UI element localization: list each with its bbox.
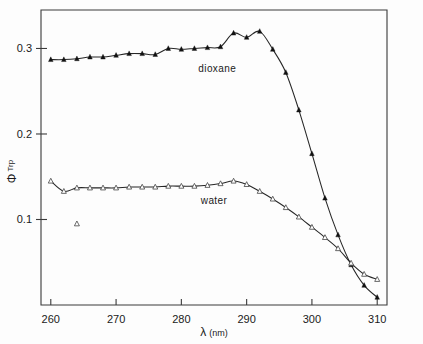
marker-dioxane-286 <box>218 44 223 49</box>
marker-dioxane-300 <box>310 151 315 156</box>
marker-water-308 <box>362 271 367 276</box>
marker-water-298 <box>296 214 301 219</box>
marker-water-294 <box>270 196 275 201</box>
annotation-water: water <box>200 195 228 206</box>
x-axis-tick-labels: 260270280290300310 <box>42 313 387 325</box>
y-axis-tick-labels: 0.10.20.3 <box>17 42 32 225</box>
x-tick-label-290: 290 <box>237 313 255 325</box>
plot-frame <box>41 10 387 305</box>
y-tick-label-0.1: 0.1 <box>17 213 32 225</box>
chart-plot: 260270280290300310 0.10.20.3 dioxanewate… <box>0 0 423 344</box>
marker-dioxane-296 <box>284 70 289 75</box>
marker-dioxane-304 <box>336 232 341 237</box>
curve-annotations: dioxanewater <box>198 63 236 206</box>
x-tick-label-270: 270 <box>107 313 125 325</box>
x-axis-title: λ(nm) <box>200 325 228 339</box>
marker-water-260 <box>48 178 53 183</box>
marker-water-292 <box>257 189 262 194</box>
plot-box <box>41 10 387 305</box>
axis-ticks <box>36 48 377 305</box>
y-axis-title: ΦTrp <box>5 159 19 183</box>
x-tick-label-310: 310 <box>368 313 386 325</box>
figure-container: 260270280290300310 0.10.20.3 dioxanewate… <box>0 0 423 344</box>
x-tick-label-300: 300 <box>303 313 321 325</box>
marker-water-296 <box>283 205 288 210</box>
x-tick-label-260: 260 <box>42 313 60 325</box>
annotation-dioxane: dioxane <box>198 63 236 74</box>
x-tick-label-280: 280 <box>172 313 190 325</box>
marker-dioxane-298 <box>297 107 302 112</box>
y-tick-label-0.3: 0.3 <box>17 42 32 54</box>
y-tick-label-0.2: 0.2 <box>17 128 32 140</box>
marker-dioxane-302 <box>323 195 328 200</box>
marker-water-outlier-264 <box>74 221 79 226</box>
